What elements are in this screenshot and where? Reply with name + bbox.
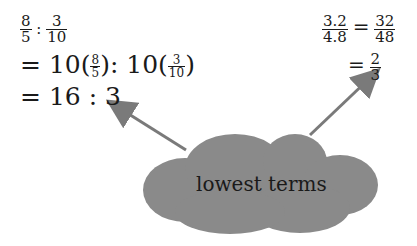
right-line-1: 3.24.8 = 3248 bbox=[322, 14, 395, 45]
arrow-left bbox=[116, 106, 186, 150]
right-line-2: = 23 bbox=[348, 52, 381, 83]
left-line-2: = 10(85): 10(310) bbox=[20, 50, 195, 79]
left-line-3: = 16 : 3 bbox=[20, 82, 121, 111]
left-line-1: 85 : 310 bbox=[20, 14, 67, 45]
arrow-right bbox=[310, 76, 372, 135]
cloud-label: lowest terms bbox=[196, 172, 327, 196]
